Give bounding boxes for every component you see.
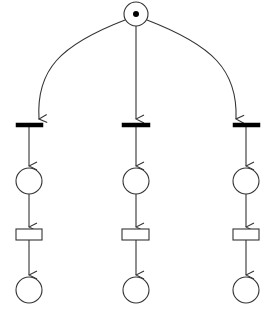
place-p2a: [16, 277, 42, 303]
place-p1a: [16, 168, 42, 194]
place-p0: [124, 2, 148, 26]
place-circle: [16, 168, 42, 194]
place-circle: [123, 168, 149, 194]
place-p1b: [123, 168, 149, 194]
place-p2c: [233, 277, 259, 303]
places-group: [16, 2, 259, 303]
immediate-transition-t1b: [122, 123, 150, 127]
timed-transition-t2a: [16, 229, 42, 240]
place-circle: [233, 277, 259, 303]
place-circle: [16, 277, 42, 303]
diagram-canvas: [0, 0, 273, 320]
token-dot: [133, 11, 139, 17]
arc-p0-to-t1a: [39, 20, 125, 119]
timed-transition-t2c: [233, 229, 259, 240]
place-p2b: [123, 277, 149, 303]
place-circle: [233, 168, 259, 194]
immediate-transition-t1c: [233, 123, 260, 127]
arc-p0-to-t1c: [147, 20, 236, 119]
immediate-transition-t1a: [16, 123, 43, 127]
timed-transition-t2b: [122, 229, 149, 240]
place-circle: [123, 277, 149, 303]
place-p1c: [233, 168, 259, 194]
petri-net-diagram: [0, 0, 273, 320]
